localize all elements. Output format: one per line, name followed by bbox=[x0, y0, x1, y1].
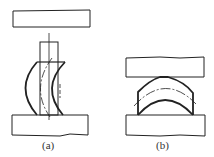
top-plate-a bbox=[13, 10, 90, 27]
mid-curve-a bbox=[40, 58, 52, 117]
left-curve-a bbox=[26, 62, 38, 115]
top-plate-b bbox=[126, 57, 204, 77]
diagram-canvas: (a) (b) bbox=[0, 0, 214, 157]
inner-arch-b bbox=[138, 100, 193, 115]
center-arch-b bbox=[134, 88, 196, 106]
panel-b bbox=[126, 57, 205, 136]
panel-label-b: (b) bbox=[156, 139, 169, 152]
panel-a bbox=[12, 10, 90, 136]
panel-label-a: (a) bbox=[42, 139, 55, 152]
bottom-plate-b bbox=[126, 115, 205, 136]
bottom-plate-a bbox=[12, 115, 88, 136]
outer-arch-b bbox=[138, 77, 193, 115]
